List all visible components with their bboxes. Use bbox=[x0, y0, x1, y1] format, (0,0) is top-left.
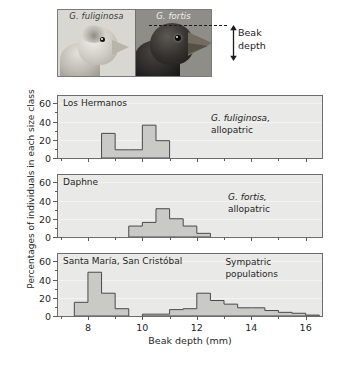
y-axis-minor-tick bbox=[55, 289, 58, 290]
y-axis-tick bbox=[53, 237, 58, 238]
y-axis-tick-label: 60 bbox=[39, 177, 51, 188]
y-axis-tick-label: 20 bbox=[39, 292, 51, 303]
y-axis-tick-label: 60 bbox=[39, 256, 51, 267]
panel-title: Los Hermanos bbox=[63, 98, 127, 108]
histogram-bar-group bbox=[129, 209, 211, 237]
panel-annotation: G. fuliginosa, allopatric bbox=[211, 112, 270, 136]
x-axis-minor-tick bbox=[170, 158, 171, 161]
y-axis-minor-tick bbox=[55, 131, 58, 132]
y-axis-minor-tick bbox=[55, 191, 58, 192]
x-axis-tick-label: 8 bbox=[85, 322, 91, 333]
x-axis-minor-tick bbox=[170, 237, 171, 240]
x-axis-minor-tick bbox=[224, 316, 225, 319]
panel-annotation-mode: populations bbox=[225, 269, 278, 279]
y-axis-tick bbox=[53, 316, 58, 317]
finch-eye-highlight bbox=[176, 36, 178, 38]
x-axis-tick bbox=[142, 237, 143, 241]
y-axis-title: Percentages of individuals in each size … bbox=[26, 84, 36, 294]
x-axis-minor-tick bbox=[278, 158, 279, 161]
x-axis-tick-label: 10 bbox=[136, 322, 148, 333]
photo-cell-fortis: G. fortis bbox=[135, 10, 211, 76]
x-axis-minor-tick bbox=[61, 316, 62, 319]
beak-depth-label-line1: Beak bbox=[238, 27, 262, 38]
x-axis-tick bbox=[251, 316, 252, 320]
finch-eye-highlight bbox=[101, 38, 103, 40]
y-axis-tick-label: 40 bbox=[39, 195, 51, 206]
y-axis-minor-tick bbox=[55, 228, 58, 229]
beak-depth-label: Beak depth bbox=[238, 27, 266, 52]
x-axis-minor-tick bbox=[306, 316, 307, 319]
beak-depth-dashed-line bbox=[149, 25, 227, 26]
histogram-panel-los-hermanos: Los Hermanos G. fuliginosa, allopatric 0… bbox=[57, 95, 323, 159]
y-axis-tick bbox=[53, 182, 58, 183]
x-axis-title: Beak depth (mm) bbox=[57, 335, 323, 346]
finch-photo-panel: G. fuliginosa G. fortis bbox=[57, 9, 212, 77]
y-axis-tick bbox=[53, 122, 58, 123]
histogram-chart-area: Percentages of individuals in each size … bbox=[0, 84, 359, 371]
photo-label-fortis: G. fortis bbox=[136, 11, 211, 21]
beak-depth-arrow-icon bbox=[229, 25, 238, 61]
y-axis-tick-label: 0 bbox=[45, 153, 51, 164]
y-axis-tick bbox=[53, 158, 58, 159]
finch-beak-depth-figure: G. fuliginosa G. fortis Beak depth Perce… bbox=[0, 0, 359, 371]
x-axis-minor-tick bbox=[61, 237, 62, 240]
y-axis-tick-label: 20 bbox=[39, 134, 51, 145]
x-axis-minor-tick bbox=[306, 158, 307, 161]
x-axis-tick bbox=[88, 158, 89, 162]
y-axis-minor-tick bbox=[55, 149, 58, 150]
x-axis-minor-tick bbox=[306, 237, 307, 240]
x-axis-tick bbox=[142, 316, 143, 320]
y-axis-tick-label: 0 bbox=[45, 311, 51, 322]
beak-depth-annotation: Beak depth bbox=[212, 24, 292, 70]
photo-cell-fuliginosa: G. fuliginosa bbox=[58, 10, 135, 76]
histogram-bar-group bbox=[74, 272, 128, 316]
y-axis-minor-tick bbox=[55, 112, 58, 113]
histogram-bar-group bbox=[142, 293, 319, 316]
x-axis-tick-label: 12 bbox=[191, 322, 203, 333]
finch-lower-mandible-shape bbox=[188, 43, 208, 54]
x-axis-tick bbox=[88, 316, 89, 320]
panel-annotation-mode: allopatric bbox=[228, 204, 270, 214]
panel-title: Santa María, San Cristóbal bbox=[63, 256, 182, 266]
y-axis-tick bbox=[53, 140, 58, 141]
y-axis-minor-tick bbox=[55, 210, 58, 211]
panel-title: Daphne bbox=[63, 177, 98, 187]
x-axis-minor-tick bbox=[170, 316, 171, 319]
histogram-bar-group bbox=[102, 125, 170, 158]
y-axis-tick-label: 40 bbox=[39, 116, 51, 127]
x-axis-tick-label: 16 bbox=[300, 322, 312, 333]
y-axis-minor-tick bbox=[55, 270, 58, 271]
y-axis-minor-tick bbox=[55, 307, 58, 308]
y-axis-tick-label: 60 bbox=[39, 98, 51, 109]
histogram-panel-daphne: Daphne G. fortis, allopatric 0204060 bbox=[57, 174, 323, 238]
y-axis-tick-label: 0 bbox=[45, 232, 51, 243]
y-axis-tick-label: 40 bbox=[39, 274, 51, 285]
x-axis-minor-tick bbox=[115, 158, 116, 161]
x-axis-minor-tick bbox=[115, 316, 116, 319]
y-axis-tick bbox=[53, 280, 58, 281]
x-axis-minor-tick bbox=[61, 158, 62, 161]
x-axis-tick bbox=[197, 316, 198, 320]
x-axis-tick bbox=[251, 158, 252, 162]
y-axis-tick bbox=[53, 103, 58, 104]
y-axis-tick bbox=[53, 219, 58, 220]
x-axis-minor-tick bbox=[224, 158, 225, 161]
x-axis-tick bbox=[197, 237, 198, 241]
x-axis-tick bbox=[142, 158, 143, 162]
panel-annotation-species: G. fortis, bbox=[228, 192, 267, 202]
beak-depth-label-line2: depth bbox=[238, 40, 266, 51]
y-axis-tick bbox=[53, 201, 58, 202]
y-axis-tick bbox=[53, 298, 58, 299]
x-axis-tick-label: 14 bbox=[245, 322, 257, 333]
photo-label-fuliginosa: G. fuliginosa bbox=[58, 11, 135, 21]
panel-annotation-species: Sympatric bbox=[225, 257, 271, 267]
y-axis-tick-label: 20 bbox=[39, 213, 51, 224]
y-axis-tick bbox=[53, 261, 58, 262]
x-axis-tick bbox=[197, 158, 198, 162]
x-axis-tick bbox=[88, 237, 89, 241]
histogram-panel-santa-maria-san-cristobal: Santa María, San Cristóbal Sympatric pop… bbox=[57, 253, 323, 317]
x-axis-minor-tick bbox=[278, 316, 279, 319]
panel-annotation-mode: allopatric bbox=[211, 125, 253, 135]
x-axis-minor-tick bbox=[115, 237, 116, 240]
x-axis-tick bbox=[251, 237, 252, 241]
